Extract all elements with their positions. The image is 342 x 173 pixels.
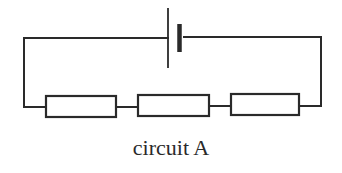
resistor-1 bbox=[46, 96, 116, 117]
cell-icon bbox=[168, 8, 180, 68]
resistor-3 bbox=[231, 94, 299, 115]
diagram-caption: circuit A bbox=[0, 135, 342, 161]
resistor-2 bbox=[138, 95, 209, 116]
